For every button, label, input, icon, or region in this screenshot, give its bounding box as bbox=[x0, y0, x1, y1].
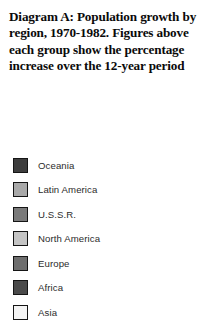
caption-line-1: Diagram A: Population growth by bbox=[9, 9, 191, 25]
legend-swatch-icon bbox=[13, 207, 28, 222]
legend-item-ussr: U.S.S.R. bbox=[13, 203, 188, 225]
legend-swatch-icon bbox=[13, 231, 28, 246]
legend-item-label: North America bbox=[38, 233, 100, 244]
legend-swatch-icon bbox=[13, 256, 28, 271]
caption-line-3: each group show the percentage bbox=[9, 42, 191, 58]
legend-item-north-america: North America bbox=[13, 228, 188, 250]
legend-item-label: Africa bbox=[38, 282, 63, 293]
legend-item-label: Asia bbox=[38, 307, 57, 318]
legend-item-label: Latin America bbox=[38, 184, 97, 195]
figure-caption: Diagram A: Population growth by region, … bbox=[9, 9, 191, 75]
chart-legend: Oceania Latin America U.S.S.R. North Ame… bbox=[13, 154, 188, 324]
legend-item-africa: Africa bbox=[13, 277, 188, 299]
legend-swatch-icon bbox=[13, 182, 28, 197]
caption-line-2: region, 1970-1982. Figures above bbox=[9, 25, 191, 41]
legend-item-label: U.S.S.R. bbox=[38, 209, 76, 220]
caption-line-4: increase over the 12-year period bbox=[9, 58, 191, 74]
legend-item-oceania: Oceania bbox=[13, 154, 188, 176]
legend-item-europe: Europe bbox=[13, 252, 188, 274]
legend-swatch-icon bbox=[13, 305, 28, 320]
legend-item-label: Europe bbox=[38, 258, 70, 269]
legend-swatch-icon bbox=[13, 280, 28, 295]
legend-item-asia: Asia bbox=[13, 302, 188, 324]
legend-item-label: Oceania bbox=[38, 160, 74, 171]
legend-item-latin-america: Latin America bbox=[13, 179, 188, 201]
legend-swatch-icon bbox=[13, 158, 28, 173]
